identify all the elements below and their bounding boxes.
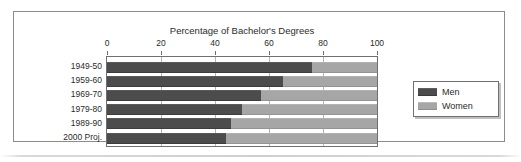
bar-segment-women: [261, 90, 377, 101]
x-tick-mark: [323, 51, 324, 55]
chart-screenshot: Percentage of Bachelor's Degrees 0204060…: [0, 0, 521, 162]
legend-item: Women: [418, 99, 494, 113]
bar-segment-women: [312, 62, 377, 73]
bar-segment-women: [283, 76, 378, 87]
y-category-label: 2000 Proj.: [63, 132, 102, 143]
bar-segment-men: [107, 133, 226, 144]
x-tick-label: 20: [156, 38, 165, 48]
x-tick-mark: [377, 51, 378, 55]
x-tick-label: 0: [105, 38, 110, 48]
x-tick-label: 100: [370, 38, 384, 48]
x-tick-label: 80: [318, 38, 327, 48]
x-tick-label: 60: [264, 38, 273, 48]
x-axis-tick-labels: 020406080100: [106, 38, 378, 49]
x-tick-mark: [215, 51, 216, 55]
y-category-label: 1959-60: [71, 75, 102, 86]
chart-legend: MenWomen: [413, 81, 499, 117]
x-tick-mark: [269, 51, 270, 55]
bars-layer: [107, 57, 377, 146]
bar-row: [107, 118, 377, 129]
legend-swatch: [418, 88, 437, 96]
chart-frame: Percentage of Bachelor's Degrees 0204060…: [13, 11, 505, 142]
chart-title: Percentage of Bachelor's Degrees: [106, 25, 378, 36]
bar-segment-men: [107, 62, 312, 73]
y-category-label: 1969-70: [71, 89, 102, 100]
legend-label: Men: [442, 87, 460, 97]
bar-segment-women: [242, 104, 377, 115]
bar-segment-men: [107, 104, 242, 115]
x-tick-label: 40: [210, 38, 219, 48]
bar-segment-men: [107, 76, 283, 87]
bar-row: [107, 90, 377, 101]
page-divider-rule: [0, 155, 521, 157]
y-axis-category-labels: 1949-501959-601969-701979-801989-902000 …: [34, 56, 102, 147]
x-tick-mark: [107, 51, 108, 55]
bar-segment-men: [107, 90, 261, 101]
bar-segment-women: [226, 133, 377, 144]
legend-swatch: [418, 102, 437, 110]
legend-label: Women: [442, 101, 473, 111]
bar-row: [107, 104, 377, 115]
bar-row: [107, 76, 377, 87]
plot-area: [106, 56, 378, 147]
bar-row: [107, 133, 377, 144]
x-tick-mark: [161, 51, 162, 55]
y-category-label: 1979-80: [71, 104, 102, 115]
bar-segment-women: [231, 118, 377, 129]
bar-segment-men: [107, 118, 231, 129]
legend-item: Men: [418, 85, 494, 99]
y-category-label: 1989-90: [71, 118, 102, 129]
y-category-label: 1949-50: [71, 61, 102, 72]
bar-row: [107, 62, 377, 73]
